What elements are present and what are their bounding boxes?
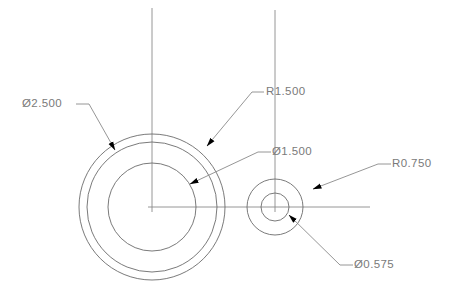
cad-drawing-canvas: Ø2.500R1.500Ø1.500R0.750Ø0.575 bbox=[0, 0, 462, 293]
cad-drawing-svg: Ø2.500R1.500Ø1.500R0.750Ø0.575 bbox=[0, 0, 462, 293]
leader-rad-0750 bbox=[313, 164, 391, 189]
dia-0575-leader-line bbox=[289, 215, 340, 265]
dimension-label-rad-0750: R0.750 bbox=[392, 157, 431, 169]
rad-0750-leader-line bbox=[313, 164, 378, 189]
leader-dia-1500 bbox=[190, 152, 271, 184]
dimension-label-dia-2500: Ø2.500 bbox=[22, 97, 62, 109]
leader-rad-1500 bbox=[207, 92, 264, 146]
dia-1500-leader-line bbox=[190, 152, 258, 184]
dimension-labels-group: Ø2.500R1.500Ø1.500R0.750Ø0.575 bbox=[22, 85, 431, 270]
leader-dia-2500 bbox=[76, 104, 115, 150]
dimension-label-rad-1500: R1.500 bbox=[266, 85, 305, 97]
dimension-label-dia-0575: Ø0.575 bbox=[354, 258, 394, 270]
centerlines-group bbox=[148, 8, 370, 212]
dimension-leaders-group bbox=[76, 92, 391, 265]
dia-2500-leader-line bbox=[89, 104, 115, 150]
rad-1500-leader-line bbox=[207, 92, 252, 146]
dimension-label-dia-1500: Ø1.500 bbox=[272, 145, 312, 157]
